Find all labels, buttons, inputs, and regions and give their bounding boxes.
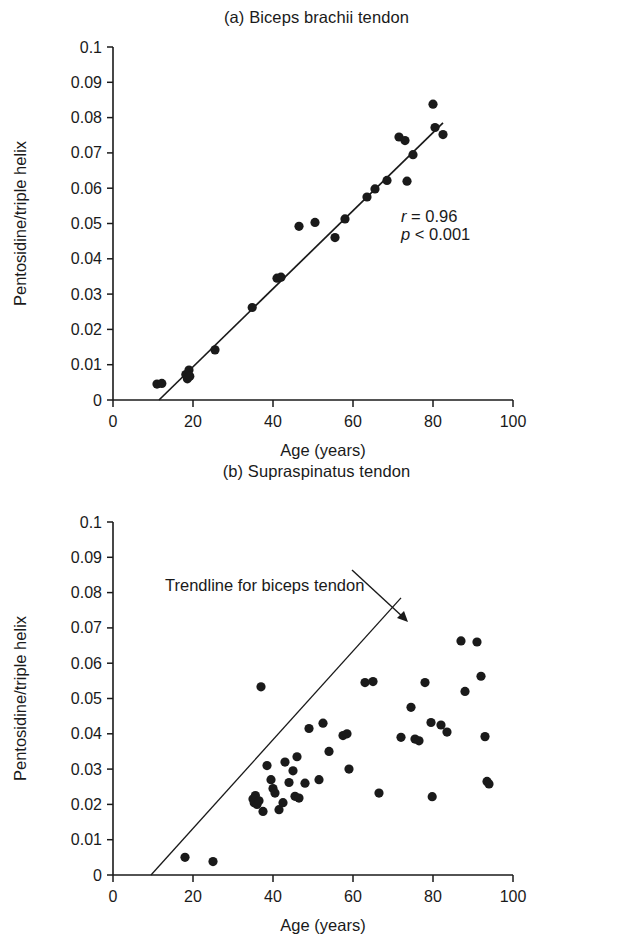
trendline-arrow [352,570,408,622]
y-tick-label: 0.03 [71,286,102,303]
data-point [210,345,219,354]
y-tick-label: 0.09 [71,74,102,91]
y-tick-label: 0 [93,392,102,409]
data-point [406,703,415,712]
y-tick-label: 0.06 [71,180,102,197]
y-tick-label: 0.08 [71,584,102,601]
data-point [476,672,485,681]
x-tick-label: 0 [109,413,118,430]
figure-container: (a) Biceps brachii tendon 00.010.020.030… [0,0,633,935]
data-point [362,192,371,201]
data-point [288,766,297,775]
arrow-shaft [352,570,404,618]
data-point [480,732,489,741]
data-point [262,761,271,770]
data-point [294,793,303,802]
x-tick-label: 100 [500,413,527,430]
data-point [428,100,437,109]
y-tick-label: 0.07 [71,619,102,636]
y-tick-label: 0.01 [71,356,102,373]
panel-a-plot: 00.010.020.030.040.050.060.070.080.090.1… [0,0,633,460]
data-point [185,372,194,381]
panel-b-supraspinatus: (b) Supraspinatus tendon 00.010.020.030.… [0,450,633,935]
data-point [342,729,351,738]
x-tick-label: 20 [184,888,202,905]
y-tick-label: 0.05 [71,215,102,232]
data-point [284,778,293,787]
data-point [344,765,353,774]
y-tick-label: 0.01 [71,831,102,848]
y-axis-title: Pentosidine/triple helix [11,140,29,306]
x-tick-label: 20 [184,413,202,430]
data-point [382,176,391,185]
data-point [324,747,333,756]
trendline-annotation-label: Trendline for biceps tendon [165,576,364,594]
data-point [436,720,445,729]
data-point [292,752,301,761]
data-point [270,789,279,798]
stat-annotation: p < 0.001 [400,225,470,243]
data-point [430,123,439,132]
x-tick-label: 60 [344,413,362,430]
data-point [396,733,405,742]
data-point [157,379,166,388]
y-tick-label: 0.1 [80,39,102,56]
data-point [266,775,275,784]
data-point [330,233,339,242]
trendline [151,598,401,875]
y-tick-label: 0.1 [80,514,102,531]
data-point [456,636,465,645]
data-point [294,222,303,231]
data-point [442,727,451,736]
x-tick-label: 60 [344,888,362,905]
data-point [248,303,257,312]
data-point [400,136,409,145]
data-point [370,184,379,193]
data-point [310,218,319,227]
data-point [304,724,313,733]
data-point [254,796,263,805]
x-tick-label: 0 [109,888,118,905]
data-point [318,719,327,728]
data-point [258,807,267,816]
data-point [472,637,481,646]
x-tick-label: 80 [424,888,442,905]
data-point [278,798,287,807]
data-point [340,214,349,223]
y-tick-label: 0.08 [71,109,102,126]
y-axis-title: Pentosidine/triple helix [11,615,29,781]
data-point [438,130,447,139]
y-tick-label: 0 [93,867,102,884]
x-axis-title: Age (years) [280,916,365,934]
y-tick-label: 0.02 [71,796,102,813]
data-point [300,779,309,788]
data-point [402,177,411,186]
stat-annotation: r = 0.96 [401,207,457,225]
data-point [256,682,265,691]
x-tick-label: 40 [264,888,282,905]
data-point [460,687,469,696]
y-tick-label: 0.09 [71,549,102,566]
data-point [180,853,189,862]
y-tick-label: 0.02 [71,321,102,338]
data-point [428,792,437,801]
data-point [360,678,369,687]
y-tick-label: 0.05 [71,690,102,707]
y-tick-label: 0.03 [71,761,102,778]
x-tick-label: 40 [264,413,282,430]
x-tick-label: 100 [500,888,527,905]
y-tick-label: 0.07 [71,144,102,161]
data-point [408,150,417,159]
data-point [414,736,423,745]
panel-a-biceps-brachii: (a) Biceps brachii tendon 00.010.020.030… [0,0,633,460]
y-tick-label: 0.04 [71,250,102,267]
data-point [208,857,217,866]
data-point [276,273,285,282]
y-tick-label: 0.04 [71,725,102,742]
data-point [280,757,289,766]
trendline [159,123,443,400]
data-point [484,779,493,788]
panel-b-plot: 00.010.020.030.040.050.060.070.080.090.1… [0,450,633,935]
data-point [368,677,377,686]
data-point [374,789,383,798]
